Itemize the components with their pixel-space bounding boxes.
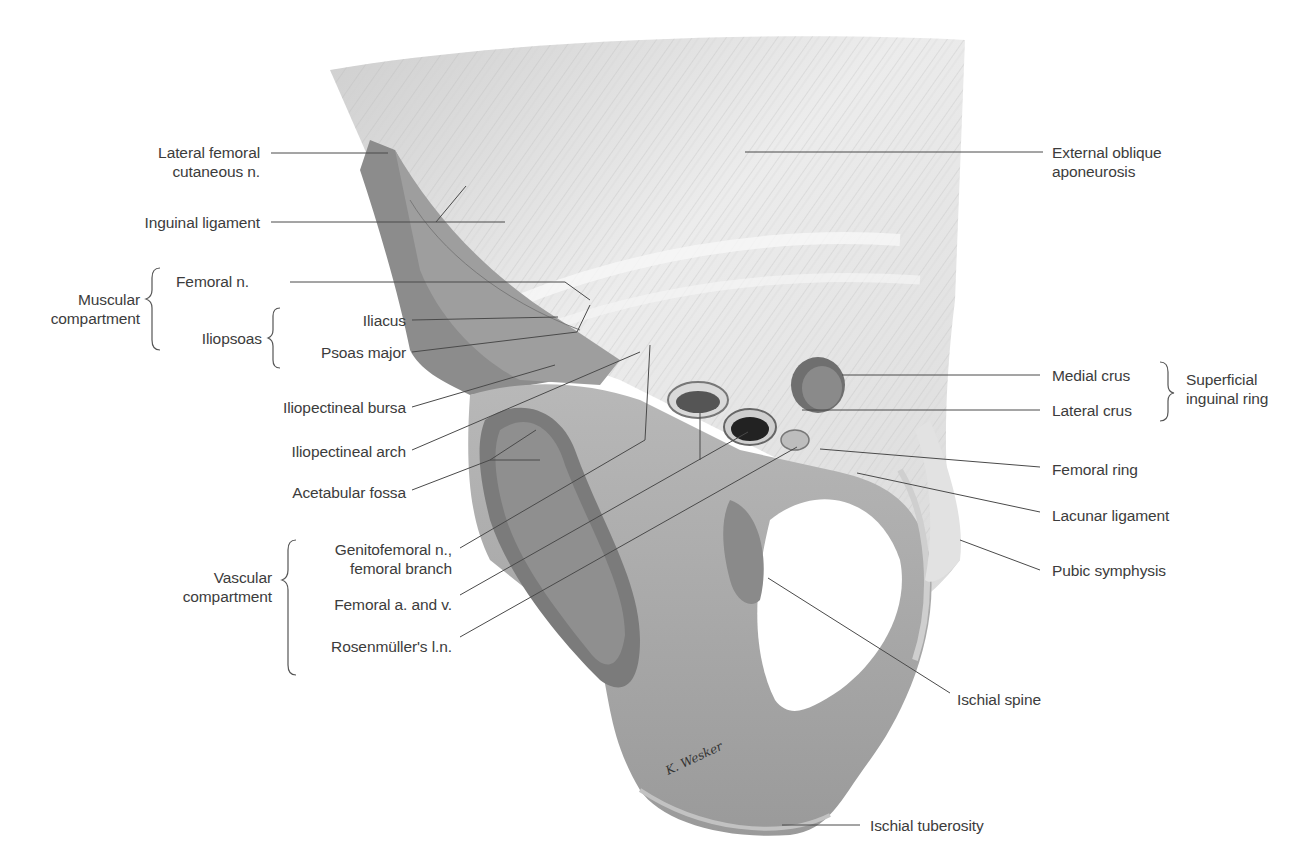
label-line-1: External oblique (1052, 143, 1162, 162)
label-pubic-symphysis: Pubic symphysis (1052, 561, 1166, 580)
label-lateral-crus: Lateral crus (1052, 401, 1132, 420)
brace-superficial-inguinal-ring (1160, 362, 1174, 421)
label-iliopectineal-arch: Iliopectineal arch (200, 442, 406, 461)
label-muscular-compartment: Muscular compartment (20, 290, 140, 328)
label-line-1: Genitofemoral n., (270, 540, 452, 559)
label-line-1: Lateral femoral (80, 143, 260, 162)
label-genitofemoral-n-femoral-branch: Genitofemoral n., femoral branch (270, 540, 452, 578)
label-lateral-femoral-cutaneous-n: Lateral femoral cutaneous n. (80, 143, 260, 181)
label-femoral-ring: Femoral ring (1052, 460, 1138, 479)
label-medial-crus: Medial crus (1052, 366, 1130, 385)
label-iliacus: Iliacus (260, 311, 406, 330)
label-superficial-inguinal-ring: Superficial inguinal ring (1186, 370, 1268, 408)
label-line-2: compartment (150, 587, 272, 606)
label-inguinal-ligament: Inguinal ligament (60, 213, 260, 232)
label-ischial-tuberosity: Ischial tuberosity (870, 816, 984, 835)
label-external-oblique-aponeurosis: External oblique aponeurosis (1052, 143, 1162, 181)
label-femoral-a-and-v: Femoral a. and v. (270, 595, 452, 614)
label-femoral-n: Femoral n. (176, 272, 249, 291)
label-line-2: cutaneous n. (80, 162, 260, 181)
label-iliopectineal-bursa: Iliopectineal bursa (200, 398, 406, 417)
label-line-1: Superficial (1186, 370, 1268, 389)
label-line-2: aponeurosis (1052, 162, 1162, 181)
label-line-2: femoral branch (270, 559, 452, 578)
label-ischial-spine: Ischial spine (957, 690, 1041, 709)
label-iliopsoas: Iliopsoas (180, 329, 262, 348)
label-rosenmullers-ln: Rosenmüller's l.n. (270, 637, 452, 656)
label-lacunar-ligament: Lacunar ligament (1052, 506, 1169, 525)
label-vascular-compartment: Vascular compartment (150, 568, 272, 606)
label-psoas-major: Psoas major (260, 343, 406, 362)
label-line-2: compartment (20, 309, 140, 328)
label-acetabular-fossa: Acetabular fossa (200, 483, 406, 502)
label-line-1: Muscular (20, 290, 140, 309)
superficial-inguinal-ring-shape (791, 357, 845, 413)
brace-muscular-compartment (146, 268, 160, 350)
label-line-1: Vascular (150, 568, 272, 587)
anatomical-illustration: K. Wesker (0, 0, 1307, 862)
label-line-2: inguinal ring (1186, 389, 1268, 408)
